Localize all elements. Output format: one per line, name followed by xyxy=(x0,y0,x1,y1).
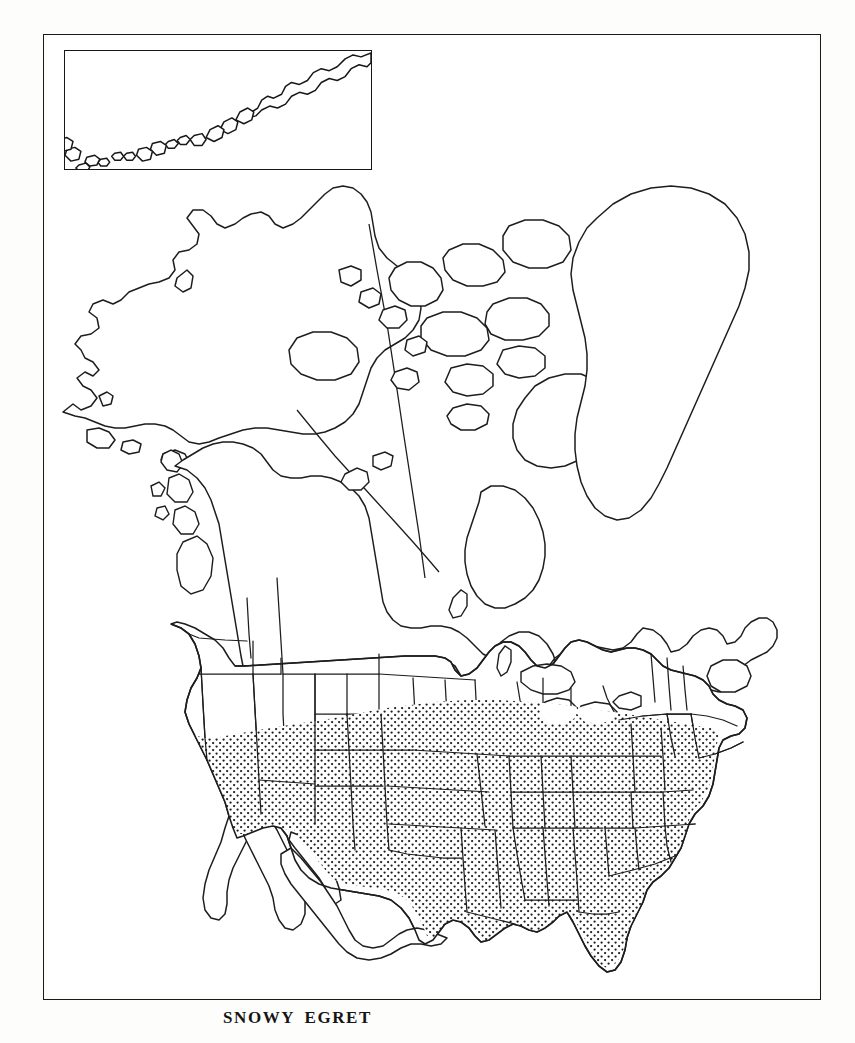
range-map-page: SNOWY EGRET xyxy=(0,0,855,1043)
aleutian-islands-inset xyxy=(64,50,372,170)
aleutian-islands-outline xyxy=(65,51,371,169)
map-caption: SNOWY EGRET xyxy=(0,1008,855,1028)
north-america-map xyxy=(47,38,817,996)
map-caption-text: SNOWY EGRET xyxy=(223,1008,372,1028)
